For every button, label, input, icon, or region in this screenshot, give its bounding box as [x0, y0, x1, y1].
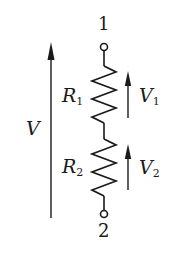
voltage-v2-symbol: V [139, 156, 153, 178]
resistor-r1-symbol: R [62, 84, 76, 106]
total-voltage-label: V [26, 119, 40, 138]
resistor-r2-subscript: 2 [76, 166, 83, 179]
resistor-r2-label: R2 [62, 157, 83, 176]
terminal-2-text: 2 [98, 220, 109, 241]
voltage-v1-label: V1 [139, 86, 160, 105]
resistor-r1-icon [92, 66, 116, 123]
terminal-1-text: 1 [98, 13, 109, 34]
voltage-v2-label: V2 [139, 158, 160, 177]
resistor-r2-icon [92, 139, 116, 196]
resistor-r1-subscript: 1 [76, 95, 83, 108]
voltage-v1-arrow-icon [125, 71, 131, 118]
terminal-1-icon [101, 44, 108, 51]
terminal-1-label: 1 [98, 15, 109, 33]
total-voltage-arrow-icon [48, 42, 55, 218]
voltage-v1-symbol: V [139, 84, 153, 106]
terminal-2-icon [101, 211, 108, 218]
voltage-v2-arrow-icon [125, 144, 131, 190]
terminal-2-label: 2 [98, 222, 109, 240]
resistor-r2-symbol: R [62, 155, 76, 177]
circuit-diagram: 1 2 V R1 R2 V1 V2 [0, 0, 170, 269]
total-voltage-symbol: V [26, 117, 40, 139]
voltage-v1-subscript: 1 [153, 95, 160, 108]
voltage-v2-subscript: 2 [153, 167, 160, 180]
resistor-r1-label: R1 [62, 86, 83, 105]
